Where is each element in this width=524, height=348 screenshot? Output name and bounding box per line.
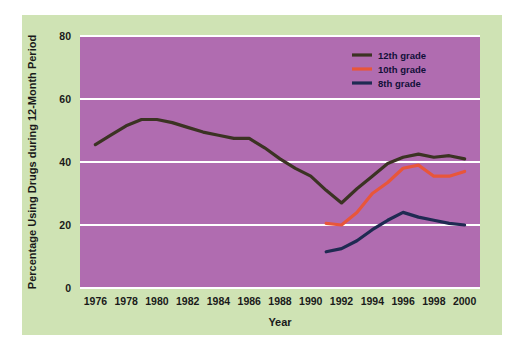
legend-label-8th-grade: 8th grade (378, 78, 421, 89)
x-tick-label-1984: 1984 (207, 295, 231, 307)
legend-label-10th-grade: 10th grade (378, 64, 426, 75)
y-tick-label-0: 0 (65, 282, 71, 294)
x-tick-label-1998: 1998 (422, 295, 446, 307)
y-axis-title: Percentage Using Drugs during 12-Month P… (26, 35, 38, 289)
x-tick-label-1980: 1980 (145, 295, 169, 307)
figure-container: 0204060801976197819801982198419861988199… (0, 0, 524, 348)
x-tick-label-1994: 1994 (361, 295, 385, 307)
y-tick-label-60: 60 (59, 93, 71, 105)
x-tick-label-1990: 1990 (299, 295, 323, 307)
chart-panel: 0204060801976197819801982198419861988199… (22, 15, 502, 335)
line-chart: 0204060801976197819801982198419861988199… (22, 15, 502, 335)
x-tick-label-2000: 2000 (453, 295, 477, 307)
x-tick-label-1992: 1992 (330, 295, 354, 307)
x-tick-label-1996: 1996 (391, 295, 415, 307)
x-tick-label-1988: 1988 (268, 295, 292, 307)
x-tick-label-1982: 1982 (176, 295, 200, 307)
x-tick-label-1986: 1986 (238, 295, 262, 307)
y-tick-label-40: 40 (59, 156, 71, 168)
legend-label-12th-grade: 12th grade (378, 50, 426, 61)
x-axis-title: Year (268, 316, 292, 328)
y-tick-label-20: 20 (59, 219, 71, 231)
y-tick-label-80: 80 (59, 30, 71, 42)
x-tick-label-1976: 1976 (84, 295, 108, 307)
x-tick-label-1978: 1978 (114, 295, 138, 307)
